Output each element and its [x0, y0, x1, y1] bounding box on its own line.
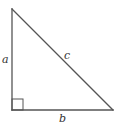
right-angle-marker — [12, 99, 23, 110]
side-a-label: a — [2, 53, 9, 66]
side-b-label: b — [59, 112, 66, 125]
side-c-label: c — [64, 49, 70, 62]
right-triangle-diagram: a c b — [0, 0, 120, 127]
hypotenuse-c-edge — [12, 9, 113, 110]
